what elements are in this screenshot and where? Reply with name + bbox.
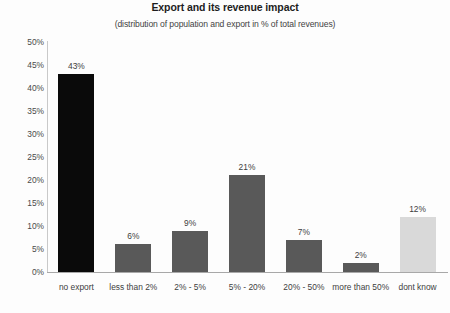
bar-group: 9% (172, 42, 208, 272)
y-axis-tick-labels: 50%45%40%35%30%25%20%15%10%5%0% (0, 0, 44, 313)
y-tick-label: 5% (4, 244, 44, 254)
bar-value-label: 9% (166, 218, 214, 228)
bar-group: 21% (229, 42, 265, 272)
y-tick-label: 15% (4, 198, 44, 208)
plot-area: 43%6%9%21%7%2%12% (48, 42, 446, 272)
bar[interactable] (115, 244, 151, 272)
y-tick-label: 40% (4, 83, 44, 93)
x-category-label: 5% - 20% (229, 282, 265, 292)
x-category-label: 20% - 50% (283, 282, 324, 292)
bar-value-label: 21% (223, 162, 271, 172)
y-tick-label: 20% (4, 175, 44, 185)
bar-group: 12% (400, 42, 436, 272)
y-tick-label: 25% (4, 152, 44, 162)
chart-subtitle: (distribution of population and export i… (0, 19, 450, 29)
x-category-label: 2% - 5% (174, 282, 206, 292)
bar[interactable] (400, 217, 436, 272)
x-category-label: no export (59, 282, 94, 292)
bar[interactable] (343, 263, 379, 272)
bar-group: 7% (286, 42, 322, 272)
x-category-label: dont know (398, 282, 436, 292)
x-axis-line (47, 272, 448, 273)
x-category-label: more than 50% (332, 282, 389, 292)
bar-value-label: 6% (109, 231, 157, 241)
bar-group: 43% (58, 42, 94, 272)
x-category-label: less than 2% (109, 282, 157, 292)
bar[interactable] (58, 74, 94, 272)
bar[interactable] (172, 231, 208, 272)
bar-value-label: 7% (280, 227, 328, 237)
bar-group: 2% (343, 42, 379, 272)
y-tick-label: 35% (4, 106, 44, 116)
y-tick-label: 10% (4, 221, 44, 231)
y-tick-label: 0% (4, 267, 44, 277)
chart-container: Export and its revenue impact (distribut… (0, 0, 450, 313)
y-tick-label: 45% (4, 60, 44, 70)
y-tick-label: 30% (4, 129, 44, 139)
chart-title: Export and its revenue impact (0, 1, 450, 13)
bar[interactable] (286, 240, 322, 272)
bar-value-label: 2% (337, 250, 385, 260)
bar-value-label: 43% (52, 61, 100, 71)
bar-group: 6% (115, 42, 151, 272)
bar-value-label: 12% (394, 204, 442, 214)
y-tick-label: 50% (4, 37, 44, 47)
bar[interactable] (229, 175, 265, 272)
x-axis-category-labels: no exportless than 2%2% - 5%5% - 20%20% … (48, 276, 448, 306)
